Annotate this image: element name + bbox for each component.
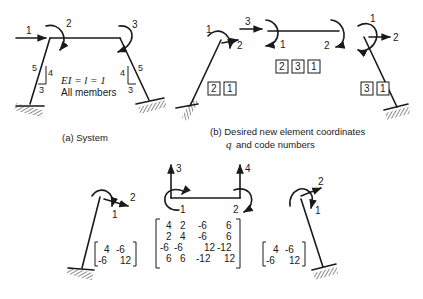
svg-text:6: 6 (166, 253, 172, 264)
code-number: 3 (295, 61, 301, 72)
stiffness-matrix-2x2: 4 -6 -6 12 (95, 242, 136, 266)
caption-a: (a) System (62, 132, 108, 143)
svg-text:-12: -12 (196, 253, 211, 264)
svg-text:4: 4 (48, 68, 53, 78)
svg-text:2: 2 (237, 40, 243, 51)
code-number: 2 (211, 83, 217, 94)
svg-text:1: 1 (180, 204, 186, 215)
caption-b-line2: and code numbers (236, 139, 315, 150)
coord-1-arrow-icon: 1 (16, 25, 46, 38)
left-column-element: 1 2 4 -6 -6 12 (67, 190, 136, 280)
svg-text:1: 1 (315, 205, 321, 216)
svg-text:6: 6 (226, 220, 232, 231)
svg-text:2: 2 (324, 40, 330, 51)
svg-text:-6: -6 (160, 242, 169, 253)
svg-text:3: 3 (176, 163, 182, 174)
svg-text:-6: -6 (198, 220, 207, 231)
svg-text:12: 12 (224, 253, 236, 264)
code-number: 2 (279, 61, 285, 72)
svg-text:4: 4 (273, 244, 279, 255)
member-properties: EI = l = 1 (60, 74, 106, 86)
code-number: 1 (311, 61, 317, 72)
svg-text:-6: -6 (198, 231, 207, 242)
structural-diagram: 1 2 3 5 4 3 4 5 3 EI = l = 1 All memb (0, 0, 423, 299)
svg-text:3: 3 (39, 85, 44, 95)
fixed-support-left-icon (14, 103, 44, 117)
svg-text:4: 4 (166, 220, 172, 231)
svg-text:-12: -12 (217, 242, 232, 253)
svg-text:5: 5 (32, 63, 37, 73)
svg-text:12: 12 (204, 242, 216, 253)
code-number: 1 (380, 83, 386, 94)
svg-text:-6: -6 (98, 255, 107, 266)
code-number: 3 (364, 83, 370, 94)
svg-text:-6: -6 (116, 244, 125, 255)
svg-text:12: 12 (120, 255, 132, 266)
beam-member: 3 1 2 2 3 1 (240, 16, 344, 73)
fixed-support-right-icon (136, 98, 167, 114)
svg-text:1: 1 (370, 13, 376, 24)
svg-text:2: 2 (233, 204, 239, 215)
svg-text:6: 6 (226, 231, 232, 242)
left-member: 1 2 2 1 (176, 24, 243, 121)
svg-text:1: 1 (206, 24, 212, 35)
svg-text:-6: -6 (174, 242, 183, 253)
svg-text:1: 1 (112, 209, 118, 220)
panel-b-element-coordinates: 1 2 2 1 3 1 2 2 3 1 (176, 13, 410, 150)
svg-text:2: 2 (166, 231, 172, 242)
svg-text:5: 5 (138, 63, 143, 73)
svg-text:-6: -6 (285, 244, 294, 255)
coord-3-label: 3 (132, 19, 138, 30)
svg-text:2: 2 (393, 32, 399, 43)
svg-text:4: 4 (104, 244, 110, 255)
svg-text:-6: -6 (266, 255, 275, 266)
right-column-element: 1 2 4 -6 -6 12 (263, 176, 338, 280)
svg-text:4: 4 (180, 231, 186, 242)
svg-text:2: 2 (180, 220, 186, 231)
stiffness-matrix-2x2: 4 -6 -6 12 (263, 242, 305, 266)
member-properties-note: All members (61, 87, 117, 98)
svg-text:6: 6 (180, 253, 186, 264)
svg-text:2: 2 (130, 192, 136, 203)
svg-text:4: 4 (120, 68, 125, 78)
svg-text:3: 3 (128, 85, 133, 95)
panel-a-system: 1 2 3 5 4 3 4 5 3 EI = l = 1 All memb (14, 18, 167, 143)
svg-text:3: 3 (245, 16, 251, 27)
code-number: 1 (227, 83, 233, 94)
slope-triangle-left: 5 4 3 (32, 63, 53, 95)
coord-1-label: 1 (26, 25, 32, 36)
panel-c-element-stiffness: 1 2 4 -6 -6 12 3 4 1 2 (67, 163, 339, 280)
svg-text:12: 12 (289, 255, 301, 266)
svg-text:4: 4 (245, 163, 251, 174)
beam-element: 3 4 1 2 4 2 -6 6 2 4 -6 6 -6 -6 12 -12 (156, 163, 252, 268)
svg-text:2: 2 (318, 176, 324, 187)
svg-text:1: 1 (280, 39, 286, 50)
coord-2-label: 2 (66, 18, 72, 29)
caption-b-line1: (b) Desired new element coordinates (210, 126, 365, 137)
caption-b-q: q (226, 138, 232, 150)
coord-2-rotation-icon: 2 (46, 18, 72, 50)
coord-3-rotation-icon: 3 (118, 19, 138, 52)
stiffness-matrix-4x4: 4 2 -6 6 2 4 -6 6 -6 -6 12 -12 6 6 -12 1… (156, 219, 240, 268)
right-member: 1 2 3 1 (358, 13, 410, 120)
